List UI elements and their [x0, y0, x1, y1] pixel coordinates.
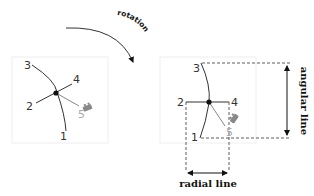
angular-line-label: angular line — [299, 67, 310, 135]
left-label-2: 2 — [26, 100, 33, 113]
left-label-4: 4 — [73, 73, 80, 86]
right-label-3: 3 — [193, 62, 200, 75]
left-label-1: 1 — [60, 130, 67, 143]
diagram-canvas: rotation 3 4 2 5 1 — [0, 0, 314, 196]
right-label-4: 4 — [231, 96, 238, 109]
radial-line-label: radial line — [179, 178, 237, 189]
right-panel: angular line radial line 3 2 4 5 1 — [160, 57, 310, 189]
left-label-5: 5 — [78, 108, 85, 121]
left-panel: 3 4 2 5 1 — [12, 57, 108, 143]
rotation-label: rotation — [117, 8, 151, 33]
right-center-point — [206, 99, 211, 104]
left-label-3: 3 — [24, 59, 31, 72]
left-center-point — [53, 90, 58, 95]
right-label-5: 5 — [226, 126, 233, 139]
right-label-2: 2 — [177, 96, 184, 109]
right-label-1: 1 — [191, 131, 198, 144]
